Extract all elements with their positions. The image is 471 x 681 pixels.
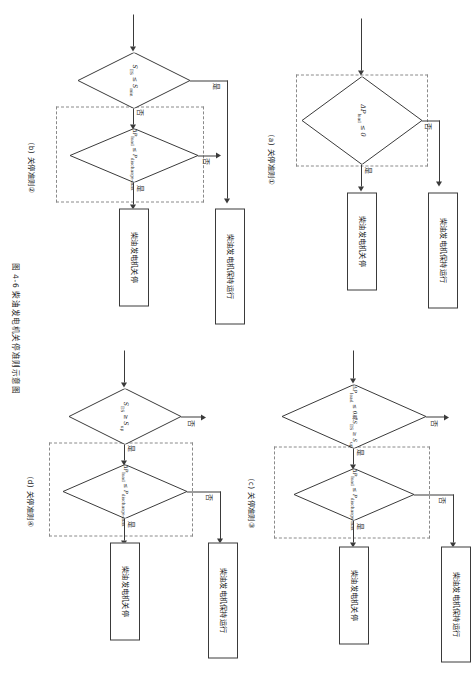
c-d1-yes-h [353,448,354,464]
box-a-keep-running: 柴油发电机保持运行 [428,192,458,308]
diamond-shape-icon [78,52,190,108]
entry-arrow-c [351,378,357,383]
c-d1-no-v [426,416,444,417]
no-line-a2 [439,120,440,182]
c-d2-no-v [414,494,454,495]
branch-label-d-d2-no: 否 [205,493,215,500]
c-d2-no-h [453,494,454,542]
subfigure-c: ΔPload ≤ 0或SES ≥ Sup 是 否 ΔPload ≤ Pdisch… [240,350,440,668]
diamond-shape-icon [302,76,422,164]
branch-label-c-d1-no: 否 [430,419,440,426]
diamond-shape-icon [294,468,414,520]
d-d2-no-h [220,491,221,539]
diamond-shape-icon [63,464,187,518]
yes-line-a [361,164,362,186]
decision-b-1: SES ≤ Smin [78,52,190,108]
box-b-shutdown: 柴油发电机关停 [119,208,149,306]
d-d1-yes-h [124,444,125,460]
box-b-keep-running: 柴油发电机保持运行 [215,208,245,324]
b-d2-yes-h [133,182,134,204]
box-d-shutdown: 柴油发电机关停 [110,542,140,640]
b-d2-no-arrow [216,152,221,158]
entry-line-d [124,350,125,382]
box-d-keep-running: 柴油发电机保持运行 [208,542,238,658]
branch-label-d-d1-yes: 是 [127,444,137,451]
box-c-shutdown: 柴油发电机关停 [339,546,369,644]
diamond-shape-icon [69,388,181,444]
d-d2-no-v [187,491,221,492]
entry-line-c [353,350,354,378]
decision-a-1: ΔPload ≤ 0 [302,76,422,164]
d-d1-no-arrow [201,414,206,420]
decision-c-2: ΔPload ≤ Pdischarge-max [294,468,414,520]
branch-label-b-d1-yes: 是 [212,82,222,89]
yes-arrow-a [359,186,365,191]
box-a-shutdown: 柴油发电机关停 [347,192,377,290]
no-line-a [422,120,440,121]
branch-label-a-no: 否 [424,122,434,129]
decision-b-2: ΔPload ≤ Pdischarge-max [70,128,198,182]
decision-d-1: SES ≥ Sup [69,388,181,444]
branch-label-a-yes: 是 [364,166,374,173]
subfigure-d: SES ≥ Sup 是 否 ΔPload ≤ Pdischarge-max 否 … [15,350,205,668]
branch-label-c-d1-yes: 是 [356,448,366,455]
decision-c-1: ΔPload ≤ 0或SES ≥ Sup [282,384,426,448]
entry-line-a [361,18,362,70]
d-d1-no-v [181,416,201,417]
subfigure-d-caption: (d) 关停准则④ [26,476,37,527]
subfigure-b: SES ≤ Smin 否 是 ΔPload ≤ Pdischarge-max 否… [12,14,212,332]
b-d1-no-line [133,108,134,124]
b-d1-yes-h [227,80,228,198]
c-d1-no-arrow [444,414,449,420]
branch-label-b-d1-no: 否 [136,108,146,115]
subfigure-a: ΔPload ≤ 0 否 是 柴油发电机保持运行 柴油发电机关停 (a) 关停准… [256,14,436,332]
branch-label-c-d2-yes: 是 [356,522,366,529]
branch-label-b-d2-no: 否 [202,157,212,164]
subfigure-b-caption: (b) 关停准则② [27,142,38,193]
box-c-keep-running: 柴油发电机保持运行 [441,546,471,662]
entry-arrow-d [122,382,128,387]
branch-label-c-d2-no: 否 [438,496,448,503]
b-d1-yes-v [190,80,228,81]
branch-label-d-d2-yes: 是 [127,520,137,527]
b-d2-no-v [198,155,216,156]
subfigure-a-caption: (a) 关停准则① [267,134,278,185]
diamond-shape-icon [70,128,198,182]
d-d2-yes-h [124,518,125,540]
figure-caption: 图 4-6 柴油发电机关停准则示意图 [11,262,22,394]
entry-arrow-a [359,70,365,75]
no-arrow-a [437,181,443,186]
subfigure-c-caption: (c) 关停准则③ [247,478,258,528]
branch-label-d-d1-no: 否 [187,419,197,426]
c-d2-yes-h [353,520,354,542]
diamond-shape-icon [282,384,426,448]
branch-label-b-d2-yes: 是 [136,184,146,191]
entry-arrow-b [131,46,137,51]
b-d1-yes-arrow [225,198,231,203]
entry-line-b [133,14,134,46]
decision-d-2: ΔPload ≤ Pdischarge-max [63,464,187,518]
